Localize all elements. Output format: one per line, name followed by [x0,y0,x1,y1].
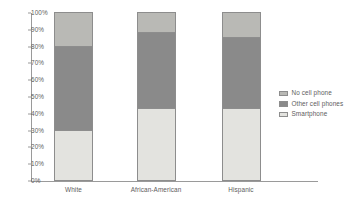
legend-label-no-cell-phone: No cell phone [292,90,332,96]
bar-stack [54,13,93,181]
legend-swatch-other-cell-phones [279,101,288,107]
bar-segment [137,32,176,109]
bar-segment [222,12,261,38]
legend-label-other-cell-phones: Other cell phones [292,101,344,107]
legend-item-smartphone: Smartphone [279,109,343,120]
chart-legend: No cell phone Other cell phones Smartpho… [279,88,343,120]
bar-segment [54,46,93,131]
legend-item-no-cell-phone: No cell phone [279,88,343,99]
bar-segment [137,12,176,33]
legend-swatch-no-cell-phone [279,91,288,97]
stacked-bar-chart: 0%10%20%30%40%50%60%70%80%90%100% WhiteA… [0,0,356,207]
bar-segment [137,108,176,181]
bar-segment [222,108,261,181]
x-axis-line [31,181,318,182]
legend-swatch-smartphone [279,112,288,118]
bar-segment [54,130,93,181]
bar-stack [137,13,176,181]
legend-item-other-cell-phones: Other cell phones [279,99,343,110]
bar-segment [222,37,261,109]
x-axis-category-label: Hispanic [228,187,253,193]
legend-label-smartphone: Smartphone [292,111,328,117]
bar-segment [54,12,93,47]
x-axis-category-label: White [65,187,82,193]
plot-area [31,13,268,181]
x-axis-category-label: African-American [131,187,182,193]
bar-stack [222,13,261,181]
